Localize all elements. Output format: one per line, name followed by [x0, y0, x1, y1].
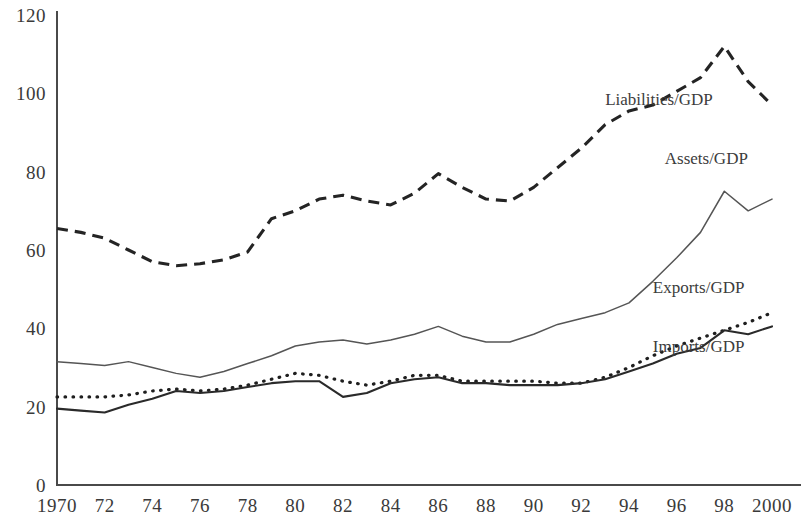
y-tick-label: 120 [16, 5, 46, 26]
series-label-exports-gdp: Exports/GDP [653, 278, 745, 297]
chart-figure: 020406080100120 197072747678808284868890… [0, 0, 804, 526]
x-tick-label: 2000 [752, 495, 792, 516]
x-tick-label: 72 [95, 495, 115, 516]
x-tick-label: 82 [333, 495, 353, 516]
x-tick-label: 94 [619, 495, 639, 516]
x-tick-label: 80 [285, 495, 305, 516]
y-tick-label: 20 [26, 397, 46, 418]
y-tick-label: 0 [36, 475, 46, 496]
y-tick-label: 40 [26, 318, 46, 339]
x-axis-tick-labels: 197072747678808284868890929496982000 [37, 495, 792, 516]
series-inline-labels: Liabilities/GDPAssets/GDPExports/GDPImpo… [605, 90, 748, 356]
x-tick-label: 88 [476, 495, 496, 516]
x-tick-label: 86 [428, 495, 448, 516]
y-tick-label: 100 [16, 83, 46, 104]
series-label-imports-gdp: Imports/GDP [653, 337, 745, 356]
y-tick-label: 80 [26, 162, 46, 183]
x-tick-label: 90 [524, 495, 544, 516]
x-tick-label: 92 [571, 495, 591, 516]
y-tick-label: 60 [26, 240, 46, 261]
chart-axes [57, 12, 800, 485]
x-tick-label: 98 [714, 495, 734, 516]
series-label-liabilities-gdp: Liabilities/GDP [605, 90, 713, 109]
x-tick-label: 1970 [37, 495, 77, 516]
x-tick-label: 96 [667, 495, 687, 516]
y-axis-tick-labels: 020406080100120 [16, 5, 46, 496]
series-label-assets-gdp: Assets/GDP [665, 149, 748, 168]
x-tick-label: 74 [142, 495, 162, 516]
x-tick-label: 84 [381, 495, 401, 516]
x-tick-label: 78 [238, 495, 258, 516]
line-chart-svg: 020406080100120 197072747678808284868890… [0, 0, 804, 526]
x-tick-label: 76 [190, 495, 210, 516]
